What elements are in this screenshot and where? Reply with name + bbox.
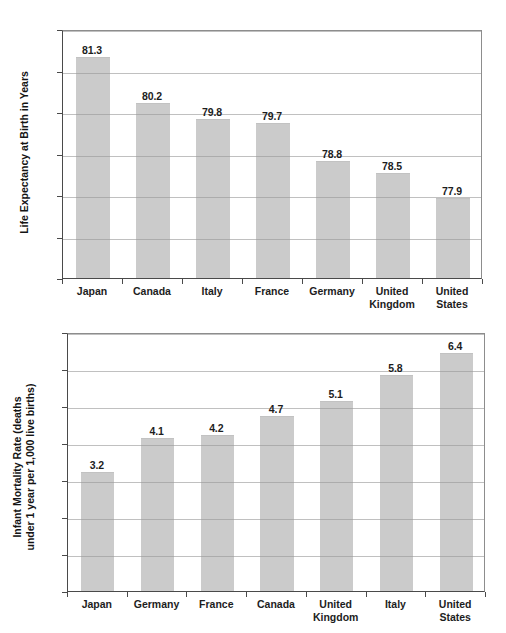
bar-value-label: 4.1 (127, 425, 187, 437)
x-axis-tick-label: UnitedKingdom (362, 285, 422, 310)
bar-value-label: 78.8 (302, 148, 362, 160)
x-axis-tick-label: UnitedStates (422, 285, 482, 310)
x-axis-tick-mark (422, 279, 423, 284)
x-axis-tick-label: UnitedKingdom (306, 598, 366, 623)
gridline (63, 239, 481, 240)
gridline (63, 197, 481, 198)
x-axis-tick-mark (62, 279, 63, 284)
bar (256, 123, 289, 278)
bar-value-label: 79.8 (182, 106, 242, 118)
x-axis-tick-mark (186, 592, 187, 597)
bar-value-label: 5.1 (306, 388, 366, 400)
bar (136, 103, 169, 278)
gridline (68, 334, 484, 335)
x-axis-tick-mark (122, 279, 123, 284)
bar-value-label: 4.7 (246, 403, 306, 415)
x-axis-tick-mark (362, 279, 363, 284)
bar-value-label: 77.9 (422, 185, 482, 197)
x-axis-tick-label: Germany (127, 598, 187, 611)
gridline (63, 156, 481, 157)
bar (316, 161, 349, 278)
figure-page: Life Expectancy at Birth in Years 767778… (0, 0, 506, 633)
bar (81, 472, 114, 591)
x-axis-tick-label: Canada (246, 598, 306, 611)
bar-value-label: 79.7 (242, 110, 302, 122)
x-axis-tick-label: Italy (366, 598, 426, 611)
x-axis-tick-label: France (186, 598, 246, 611)
bar (376, 173, 409, 278)
gridline (68, 556, 484, 557)
gridline (68, 519, 484, 520)
x-axis-tick-label: Germany (302, 285, 362, 298)
bar-value-label: 78.5 (362, 160, 422, 172)
x-axis-tick-mark (425, 592, 426, 597)
bar-value-label: 80.2 (122, 90, 182, 102)
bar (260, 416, 293, 591)
bar-value-label: 4.2 (186, 422, 246, 434)
bar (141, 438, 174, 591)
gridline (68, 482, 484, 483)
x-axis-tick-mark (246, 592, 247, 597)
bar (201, 435, 234, 591)
gridline (63, 73, 481, 74)
x-axis-tick-mark (67, 592, 68, 597)
x-axis-tick-label: Japan (62, 285, 122, 298)
x-axis-tick-label: Italy (182, 285, 242, 298)
x-axis-tick-mark (127, 592, 128, 597)
bar (320, 401, 353, 591)
y-axis-title: Life Expectancy at Birth in Years (18, 48, 31, 258)
x-axis-tick-label: Canada (122, 285, 182, 298)
bar-value-label: 5.8 (366, 362, 426, 374)
x-axis-tick-mark (366, 592, 367, 597)
bar-value-label: 6.4 (425, 340, 485, 352)
x-axis-tick-mark (242, 279, 243, 284)
bar-value-label: 81.3 (62, 44, 122, 56)
x-axis-tick-label: Japan (67, 598, 127, 611)
x-axis-tick-mark (485, 592, 486, 597)
x-axis-tick-mark (482, 279, 483, 284)
y-axis-title: Infant Mortality Rate (deaths under 1 ye… (11, 352, 37, 582)
bar (76, 57, 109, 278)
gridline (63, 31, 481, 32)
bar (196, 119, 229, 278)
x-axis-tick-label: France (242, 285, 302, 298)
x-axis-tick-mark (182, 279, 183, 284)
plot-area (62, 30, 482, 279)
bar-value-label: 3.2 (67, 459, 127, 471)
x-axis-tick-mark (306, 592, 307, 597)
gridline (68, 445, 484, 446)
x-axis-tick-label: UnitedStates (425, 598, 485, 623)
x-axis-tick-mark (302, 279, 303, 284)
